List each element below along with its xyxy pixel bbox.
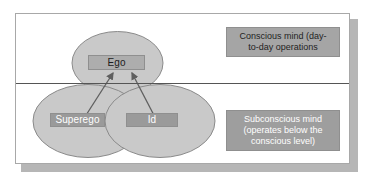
id-label-text: Id — [148, 115, 157, 125]
conscious-note-line-2: to-day operations — [239, 42, 326, 53]
superego-label-chip: Superego — [50, 113, 105, 127]
diagram-canvas: Ego Superego Id Conscious mind (day- to-… — [0, 0, 370, 184]
subconscious-mind-note: Subconscious mind (operates below the co… — [226, 110, 340, 151]
superego-label-text: Superego — [55, 115, 99, 125]
subconscious-note-line-2: (operates below the — [243, 125, 322, 136]
id-label-chip: Id — [126, 113, 178, 127]
conscious-subconscious-divider — [16, 83, 349, 84]
conscious-mind-note: Conscious mind (day- to-day operations — [226, 27, 340, 57]
ego-label-text: Ego — [107, 58, 125, 68]
subconscious-note-line-3: conscious level) — [243, 136, 322, 147]
ego-label-chip: Ego — [88, 55, 145, 70]
subconscious-note-line-1: Subconscious mind — [243, 114, 322, 125]
conscious-note-line-1: Conscious mind (day- — [239, 31, 326, 42]
